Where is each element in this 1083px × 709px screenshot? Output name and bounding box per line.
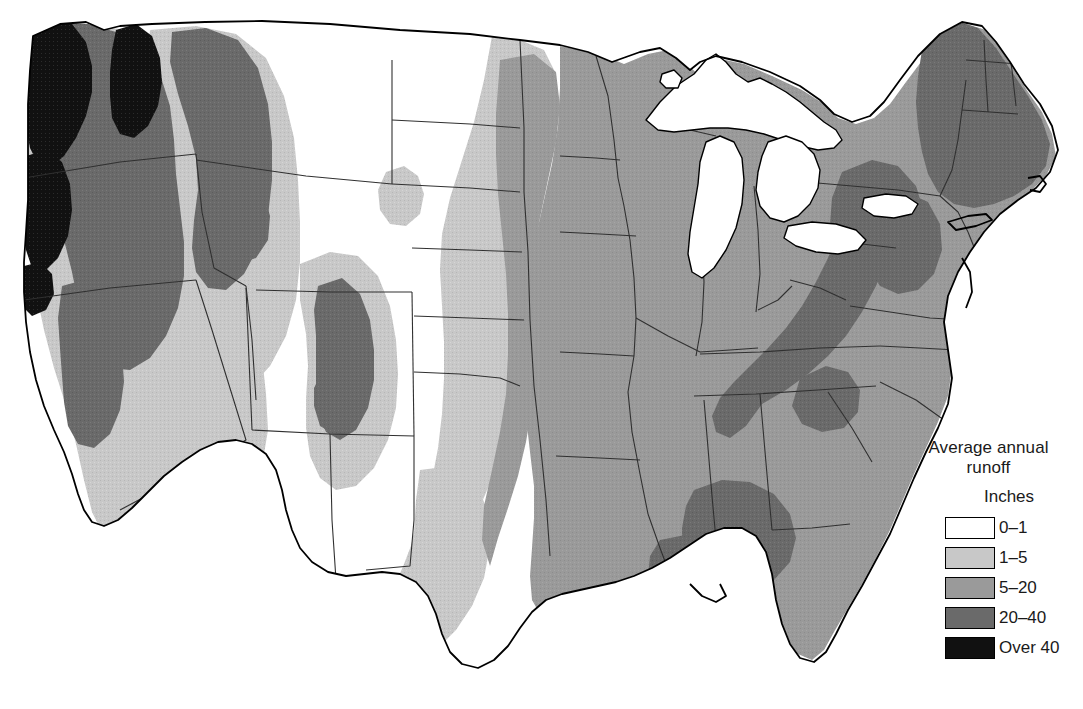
legend-label-0-1: 0–1: [999, 517, 1027, 539]
legend-swatch-over-40: [945, 637, 995, 659]
legend-swatch-5-20: [945, 577, 995, 599]
legend-item: 1–5: [945, 543, 1083, 573]
legend-item: 0–1: [945, 513, 1083, 543]
legend-title-line1: Average annual: [911, 438, 1066, 458]
legend-label-1-5: 1–5: [999, 547, 1027, 569]
legend-class-list: 0–1 1–5 5–20 20–40 Over 40: [905, 513, 1083, 663]
legend-item: Over 40: [945, 633, 1083, 663]
legend-units-label: Inches: [905, 487, 1077, 507]
legend-item: 20–40: [945, 603, 1083, 633]
legend-label-over-40: Over 40: [999, 637, 1059, 659]
legend-swatch-0-1: [945, 517, 995, 539]
legend-label-5-20: 5–20: [999, 577, 1037, 599]
runoff-map-figure: Average annual runoff Inches 0–1 1–5 5–2…: [0, 0, 1083, 709]
map-legend: Average annual runoff Inches 0–1 1–5 5–2…: [905, 438, 1083, 663]
legend-swatch-20-40: [945, 607, 995, 629]
legend-title-line2: runoff: [911, 458, 1066, 478]
legend-item: 5–20: [945, 573, 1083, 603]
legend-label-20-40: 20–40: [999, 607, 1046, 629]
legend-swatch-1-5: [945, 547, 995, 569]
